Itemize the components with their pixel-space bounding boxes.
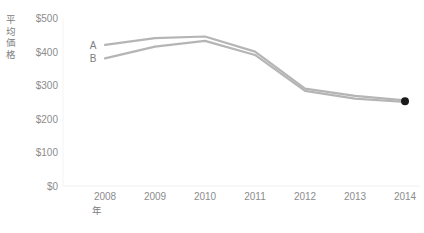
series-label-b: B xyxy=(90,53,97,64)
series-line-b xyxy=(105,41,405,102)
endpoint-marker xyxy=(401,97,409,105)
x-tick-label: 2012 xyxy=(294,191,316,202)
x-tick-label: 2011 xyxy=(244,191,266,202)
series-label-a: A xyxy=(90,39,97,50)
x-tick-label: 2008 xyxy=(94,191,116,202)
x-tick-label: 2014 xyxy=(394,191,416,202)
x-tick-label: 2013 xyxy=(344,191,366,202)
series-line-a xyxy=(105,36,405,100)
x-tick-label: 2010 xyxy=(194,191,216,202)
series-layer xyxy=(105,36,405,102)
x-axis-title: 年 xyxy=(92,203,102,217)
line-chart: 平均価格 $500$400$300$200$100$0 200820092010… xyxy=(0,0,424,233)
endpoint-marker-layer xyxy=(401,97,409,105)
x-tick-label: 2009 xyxy=(144,191,166,202)
